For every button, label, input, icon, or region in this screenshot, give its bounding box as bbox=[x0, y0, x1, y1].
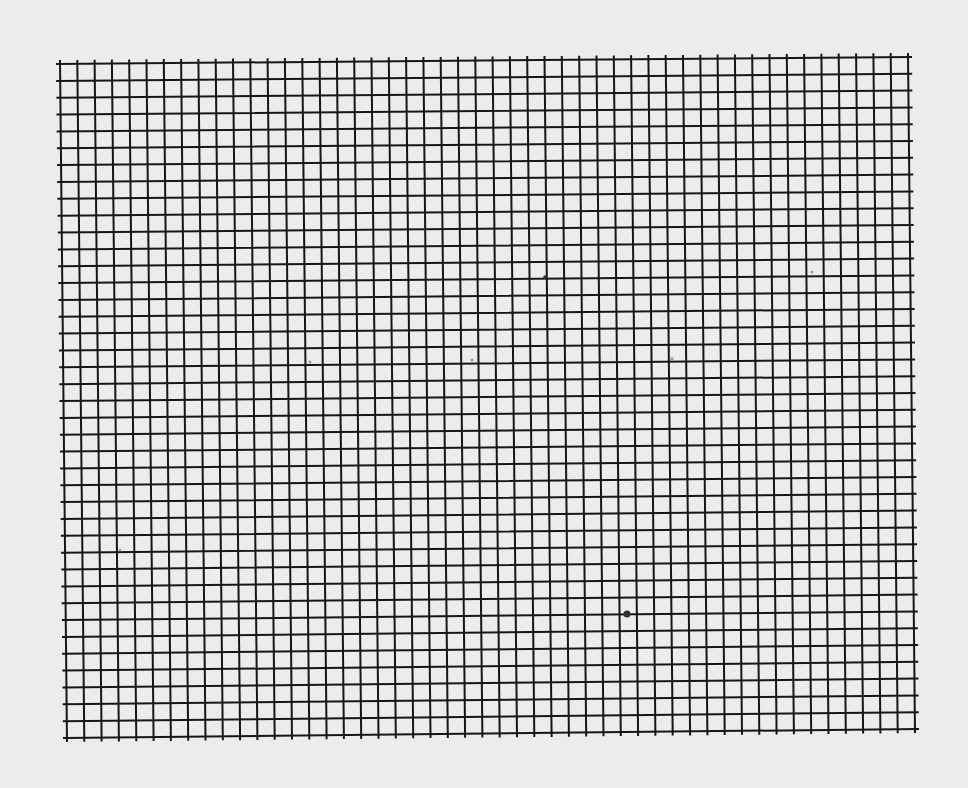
grid-horizontal-line bbox=[58, 191, 912, 198]
grid-horizontal-line bbox=[63, 628, 917, 637]
grid-horizontal-line bbox=[59, 208, 913, 216]
grid-horizontal-line bbox=[60, 309, 914, 317]
grid-horizontal-line bbox=[60, 292, 914, 300]
grid-horizontal-line bbox=[61, 477, 915, 485]
grid-horizontal-line bbox=[58, 124, 912, 131]
grid-horizontal-line bbox=[62, 511, 916, 519]
paper-speck bbox=[670, 357, 674, 361]
grid-horizontal-line bbox=[61, 410, 915, 418]
grid-horizontal-line bbox=[60, 359, 914, 367]
paper-speck bbox=[309, 361, 312, 364]
grid-horizontal-line bbox=[57, 91, 911, 98]
grid-horizontal-line bbox=[60, 376, 914, 384]
paper-speck bbox=[624, 611, 631, 618]
graph-paper-page bbox=[0, 0, 968, 788]
paper-speck bbox=[543, 275, 547, 279]
grid-horizontal-line bbox=[63, 645, 917, 654]
grid-horizontal-line bbox=[59, 225, 913, 233]
grid-horizontal-line bbox=[64, 679, 918, 688]
paper-speck bbox=[811, 271, 814, 274]
grid-horizontal-line bbox=[64, 695, 918, 704]
grid-horizontal-line bbox=[62, 561, 916, 570]
grid-horizontal-line bbox=[57, 74, 911, 81]
grid-horizontal-line bbox=[58, 158, 912, 165]
grid-horizontal-line bbox=[62, 578, 916, 587]
grid-horizontal-line bbox=[64, 712, 918, 721]
grid-horizontal-line bbox=[60, 326, 914, 334]
grid-horizontal-line bbox=[62, 544, 916, 553]
grid-horizontal-line bbox=[63, 595, 917, 604]
paper-speck bbox=[119, 549, 121, 551]
grid-horizontal-line bbox=[57, 57, 911, 64]
grid-horizontal-line bbox=[59, 259, 913, 267]
grid-horizontal-line bbox=[58, 141, 912, 148]
grid-horizontal-line bbox=[59, 275, 913, 283]
grid-horizontal-line bbox=[62, 494, 916, 502]
grid-lines bbox=[57, 54, 918, 741]
grid-horizontal-line bbox=[61, 393, 915, 401]
graph-paper-grid bbox=[0, 0, 968, 788]
grid-horizontal-line bbox=[60, 343, 914, 351]
grid-horizontal-line bbox=[59, 242, 913, 250]
grid-horizontal-line bbox=[58, 175, 912, 182]
grid-horizontal-line bbox=[61, 427, 915, 435]
grid-horizontal-line bbox=[58, 107, 912, 114]
grid-horizontal-line bbox=[63, 611, 917, 620]
grid-horizontal-line bbox=[63, 662, 917, 671]
grid-horizontal-line bbox=[61, 460, 915, 468]
grid-horizontal-line bbox=[62, 527, 916, 535]
grid-horizontal-line bbox=[61, 443, 915, 451]
grid-horizontal-line bbox=[64, 729, 918, 738]
paper-speck bbox=[471, 359, 474, 362]
